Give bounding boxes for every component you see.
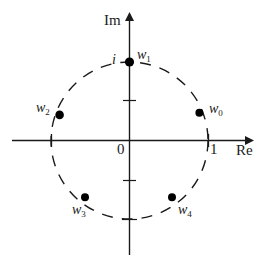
label-w3-base: w [72,202,81,217]
point-w3 [81,193,89,201]
label-w2-base: w [36,100,45,115]
imaginary-axis-label: Im [104,13,121,28]
point-w0 [195,109,203,117]
label-w1-base: w [137,47,146,62]
label-w4-subscript: 4 [187,209,192,219]
point-w1 [125,57,134,66]
label-w4-base: w [178,202,187,217]
unit-real-label: 1 [210,142,218,157]
label-w4: w4 [178,203,192,217]
imaginary-axis-arrowhead [125,12,134,21]
point-w4 [168,193,176,201]
diagram-canvas [0,0,267,263]
label-w3-subscript: 3 [81,209,86,219]
label-w0-base: w [209,101,218,116]
label-w0-subscript: 0 [218,108,223,118]
label-w2-subscript: 2 [45,107,50,117]
point-w2 [55,111,64,120]
label-w3: w3 [72,203,86,217]
label-w1-subscript: 1 [146,54,151,64]
label-w0: w0 [209,102,223,116]
real-axis [12,136,254,145]
label-w1: w1 [137,48,151,62]
origin-label: 0 [117,142,125,157]
real-axis-label: Re [236,143,253,158]
unit-imaginary-label: i [112,53,116,67]
complex-plane-figure: Im Re 0 1 i w0 w1 w2 w3 w4 [0,0,267,263]
label-w2: w2 [36,101,50,115]
